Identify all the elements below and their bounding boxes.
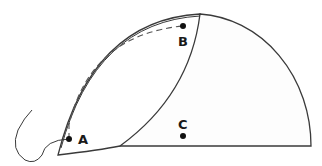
label-b: B — [178, 34, 188, 49]
point-b-dot — [180, 23, 186, 29]
point-c-dot — [180, 133, 186, 139]
label-a: A — [78, 132, 88, 147]
label-c: C — [178, 117, 188, 132]
diagram-canvas: A B C — [0, 0, 322, 166]
point-a-dot — [66, 136, 72, 142]
